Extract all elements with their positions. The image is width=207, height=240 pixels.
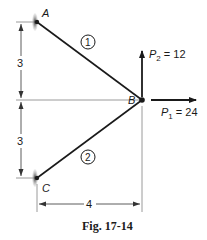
vertical-dimension-upper: 3: [17, 24, 23, 98]
node-label-b: B: [128, 94, 135, 106]
horizontal-dimension: 4: [39, 198, 140, 210]
joint-c: [35, 176, 39, 180]
dimension-label-lower: 3: [17, 135, 23, 147]
figure-caption: Fig. 17-14: [82, 219, 133, 233]
member-label-1: 1: [81, 35, 95, 49]
joint-a: [35, 20, 39, 24]
joint-b: [139, 97, 145, 103]
dimension-label-horizontal: 4: [86, 198, 92, 210]
node-label-c: C: [42, 182, 50, 194]
truss-diagram: 3 3 4 1 2 A B C P2 = 12 P1 =: [0, 0, 207, 240]
member-label-2: 2: [81, 150, 95, 164]
member-2: [37, 100, 142, 178]
member-1: [37, 22, 142, 100]
load-p1-label: P1 = 24: [161, 106, 198, 121]
vertical-dimension-lower: 3: [17, 102, 23, 176]
svg-text:1: 1: [85, 37, 91, 48]
load-p2-label: P2 = 12: [149, 48, 186, 63]
node-label-a: A: [41, 7, 49, 19]
dimension-label-upper: 3: [17, 57, 23, 69]
svg-text:2: 2: [85, 152, 91, 163]
